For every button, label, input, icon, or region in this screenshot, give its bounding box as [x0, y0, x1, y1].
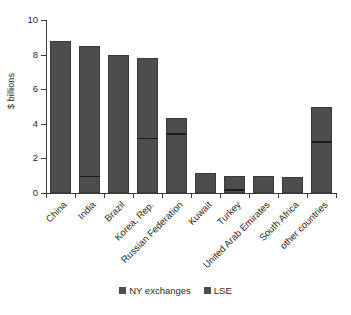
y-tick: 2: [41, 158, 46, 159]
y-tick-label: 0: [33, 187, 38, 198]
bar-segment-divider: [138, 138, 157, 140]
bar-chart: $ billions 0246810 ChinaIndiaBrazilKorea…: [0, 0, 351, 315]
legend-label: NY exchanges: [129, 285, 191, 296]
legend-label: LSE: [214, 285, 232, 296]
legend-item-ny-exchanges: NY exchanges: [119, 285, 191, 296]
y-tick: 8: [41, 55, 46, 56]
x-tick: [162, 193, 163, 198]
legend-swatch-icon: [119, 287, 126, 294]
bar: [50, 41, 71, 193]
x-tick: [133, 193, 134, 198]
y-tick-label: 4: [33, 118, 38, 129]
plot-area: 0246810: [46, 20, 336, 193]
x-tick: [104, 193, 105, 198]
legend-item-lse: LSE: [204, 285, 232, 296]
bar: [253, 176, 274, 193]
y-tick-label: 6: [33, 83, 38, 94]
bar: [166, 118, 187, 193]
bar: [224, 176, 245, 193]
x-tick: [220, 193, 221, 198]
bar-segment-divider: [225, 189, 244, 191]
bar: [108, 55, 129, 193]
bar-segment-divider: [167, 133, 186, 135]
bar: [282, 177, 303, 193]
x-tick: [46, 193, 47, 198]
y-tick-label: 2: [33, 152, 38, 163]
chart-legend: NY exchanges LSE: [0, 285, 351, 296]
bar: [195, 173, 216, 193]
y-tick: 10: [41, 20, 46, 21]
y-axis-line: [46, 20, 47, 194]
x-tick: [249, 193, 250, 198]
y-tick-label: 10: [27, 14, 38, 25]
legend-swatch-icon: [204, 287, 211, 294]
x-tick: [336, 193, 337, 198]
bar-segment-divider: [80, 176, 99, 178]
x-tick: [278, 193, 279, 198]
x-tick: [191, 193, 192, 198]
x-tick: [307, 193, 308, 198]
y-tick: 6: [41, 89, 46, 90]
y-axis-title: $ billions: [6, 51, 16, 131]
y-tick-label: 8: [33, 49, 38, 60]
bar: [137, 58, 158, 193]
x-tick: [75, 193, 76, 198]
bar-segment-divider: [312, 141, 331, 143]
bar: [79, 46, 100, 193]
y-tick: 4: [41, 124, 46, 125]
x-axis-line: [41, 193, 337, 194]
bar: [311, 107, 332, 194]
